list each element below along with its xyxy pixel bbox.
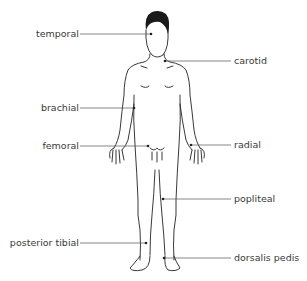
label-temporal: temporal [36,28,79,39]
label-dorsalis-pedis: dorsalis pedis [234,252,299,263]
label-carotid: carotid [234,55,267,66]
pulse-points-diagram: temporal carotid brachial femoral radial… [0,0,307,281]
label-popliteal: popliteal [234,193,275,204]
hair-shape [146,11,170,34]
label-femoral: femoral [42,140,79,151]
label-brachial: brachial [41,102,79,113]
label-radial: radial [234,139,261,150]
label-posterior-tibial: posterior tibial [10,237,79,248]
